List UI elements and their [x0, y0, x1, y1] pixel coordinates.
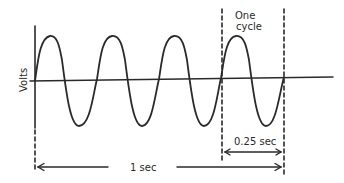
period-label: 0.25 sec: [234, 136, 276, 147]
cycle-label-line1: One: [235, 10, 255, 21]
sine-wave-diagram: Volts One cycle 0.25 sec 1 sec: [0, 0, 344, 183]
x-axis: [30, 77, 333, 81]
total-time-label: 1 sec: [130, 162, 156, 173]
y-axis-label: Volts: [18, 68, 29, 92]
cycle-label-line2: cycle: [236, 21, 262, 32]
